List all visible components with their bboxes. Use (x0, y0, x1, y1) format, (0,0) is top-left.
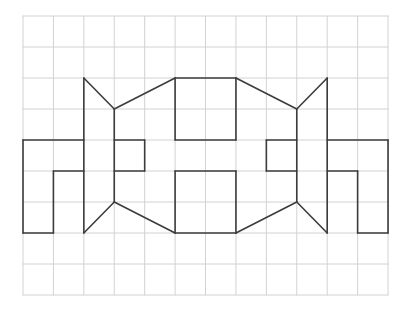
figure-segment (297, 202, 327, 233)
figure-segment (84, 78, 114, 109)
figure-segment (84, 202, 114, 233)
figure-segment (297, 78, 327, 109)
grid-diagram (0, 0, 407, 310)
grid-lines (23, 16, 388, 295)
